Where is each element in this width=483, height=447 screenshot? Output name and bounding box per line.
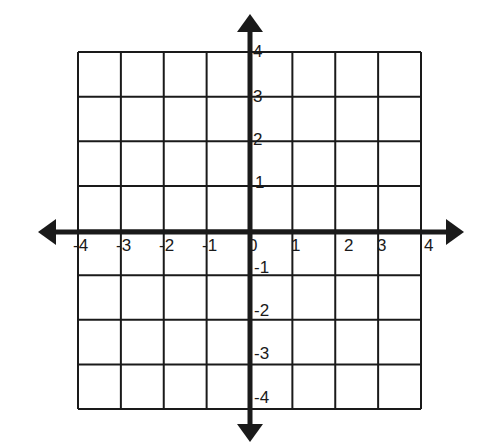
y-axis-down-arrow-icon [237,424,263,442]
x-tick-label: 1 [291,237,300,254]
x-axis-right-arrow-icon [446,219,464,245]
x-tick-label: -1 [202,237,217,254]
x-axis-left-arrow-icon [38,219,56,245]
x-tick-label: -4 [73,237,88,254]
y-tick-label: -2 [254,302,269,319]
y-tick-label: 3 [253,88,262,105]
x-tick-label: 3 [377,237,386,254]
x-tick-label: 2 [344,237,353,254]
y-tick-label: 2 [253,131,262,148]
y-tick-label: 4 [253,43,262,60]
y-tick-label: -1 [254,259,269,276]
x-tick-label: -3 [116,237,131,254]
x-tick-label: -2 [159,237,174,254]
y-tick-label: 1 [255,174,264,191]
y-tick-label: -3 [254,345,269,362]
y-axis-up-arrow-icon [237,14,263,32]
grid-svg [0,0,483,447]
coordinate-plane: -4 -3 -2 -1 0 1 2 3 4 4 3 2 1 -1 -2 -3 -… [0,0,483,447]
y-tick-label: -4 [254,389,269,406]
x-tick-label: 4 [424,237,433,254]
x-tick-label: 0 [248,237,257,254]
